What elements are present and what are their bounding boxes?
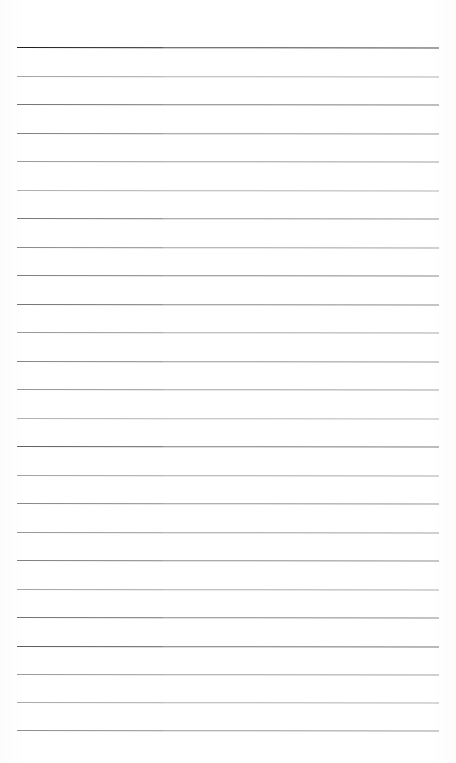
ruled-line-segment-left (17, 589, 163, 590)
ruled-line-segment-right (163, 646, 439, 647)
ruled-line (0, 74, 456, 78)
ruled-line (0, 387, 456, 391)
ruled-line-segment-left (17, 161, 163, 162)
ruled-line-segment-left (17, 190, 163, 191)
ruled-line-segment-left (17, 503, 163, 504)
ruled-line-segment-left (17, 646, 163, 647)
ruled-line (0, 45, 456, 49)
ruled-line-segment-left (17, 47, 163, 48)
ruled-line-segment-right (163, 161, 439, 162)
ruled-line-segment-right (163, 475, 439, 476)
ruled-line-segment-right (163, 532, 439, 533)
ruled-line-segment-right (163, 617, 439, 618)
ruled-line (0, 700, 456, 704)
ruled-line (0, 644, 456, 648)
ruled-line-segment-left (17, 702, 163, 703)
ruled-line-segment-right (163, 361, 439, 362)
ruled-line-segment-right (163, 218, 439, 219)
ruled-line-segment-left (17, 104, 163, 105)
ruled-line (0, 359, 456, 363)
ruled-line (0, 416, 456, 420)
ruled-line-segment-left (17, 76, 163, 77)
ruled-line-segment-left (17, 532, 163, 533)
ruled-line-segment-left (17, 389, 163, 390)
ruled-line-segment-left (17, 332, 163, 333)
ruled-line (0, 444, 456, 448)
ruled-line (0, 302, 456, 306)
ruled-line-segment-left (17, 218, 163, 219)
ruled-line-segment-left (17, 247, 163, 248)
ruled-line-segment-right (163, 674, 439, 675)
ruled-line-segment-right (163, 589, 439, 590)
ruled-line-segment-right (163, 418, 439, 419)
ruled-line-segment-left (17, 361, 163, 362)
ruled-line-segment-right (163, 190, 439, 191)
ruled-line (0, 216, 456, 220)
ruled-line (0, 102, 456, 106)
ruled-line (0, 587, 456, 591)
ruled-line-segment-right (163, 304, 439, 305)
ruled-line (0, 615, 456, 619)
ruled-line (0, 188, 456, 192)
ruled-line (0, 558, 456, 562)
ruled-line (0, 530, 456, 534)
ruled-line-segment-left (17, 418, 163, 419)
ruled-line (0, 330, 456, 334)
ruled-line-segment-right (163, 133, 439, 134)
ruled-line-segment-left (17, 475, 163, 476)
ruled-line-segment-right (163, 275, 439, 276)
bottom-margin-area (0, 732, 456, 763)
ruled-line-segment-right (163, 332, 439, 333)
ruled-line-segment-left (17, 617, 163, 618)
ruled-line (0, 473, 456, 477)
ruled-line-segment-left (17, 446, 163, 447)
ruled-line-segment-right (163, 76, 439, 77)
ruled-line-segment-right (163, 47, 439, 48)
top-margin-area (0, 0, 456, 45)
ruled-line-segment-left (17, 560, 163, 561)
ruled-line-segment-left (17, 674, 163, 675)
ruled-line-segment-right (163, 389, 439, 390)
ruled-line (0, 245, 456, 249)
ruled-line (0, 131, 456, 135)
scanned-page (0, 0, 456, 763)
ruled-line-segment-right (163, 503, 439, 504)
ruled-line (0, 159, 456, 163)
ruled-line-segment-left (17, 275, 163, 276)
ruled-line-segment-left (17, 133, 163, 134)
ruled-line-segment-right (163, 104, 439, 105)
paper-grain-overlay (0, 0, 456, 763)
ruled-line-segment-right (163, 702, 439, 703)
ruled-line (0, 672, 456, 676)
ruled-line-segment-left (17, 304, 163, 305)
ruled-line-segment-right (163, 446, 439, 447)
ruled-line (0, 501, 456, 505)
ruled-line-segment-right (163, 247, 439, 248)
ruled-line (0, 273, 456, 277)
ruled-line-segment-right (163, 560, 439, 561)
